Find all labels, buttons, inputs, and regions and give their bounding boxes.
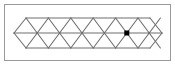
figure-panel: [0, 0, 175, 66]
triangular-lattice-figure: [0, 0, 175, 66]
marked-vertex-dot: [124, 31, 129, 36]
